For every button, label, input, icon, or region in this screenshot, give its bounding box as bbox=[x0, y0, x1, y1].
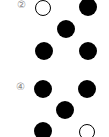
filled-circle-icon bbox=[56, 101, 74, 119]
filled-circle-icon bbox=[79, 0, 97, 16]
filled-circle-icon bbox=[34, 80, 52, 98]
option-label: ④ bbox=[16, 82, 25, 92]
filled-circle-icon bbox=[78, 80, 96, 98]
option-label: ② bbox=[17, 0, 26, 10]
filled-circle-icon bbox=[35, 42, 53, 60]
open-circle-icon bbox=[79, 124, 95, 137]
filled-circle-icon bbox=[79, 42, 97, 60]
filled-circle-icon bbox=[57, 20, 75, 38]
filled-circle-icon bbox=[34, 122, 52, 137]
open-circle-icon bbox=[35, 0, 51, 16]
